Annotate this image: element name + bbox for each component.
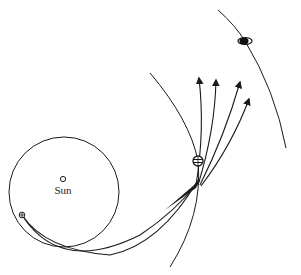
transfer-path-inner [22, 180, 198, 255]
jupiter-marker-icon [193, 156, 203, 166]
saturn-marker-icon [238, 38, 252, 45]
transfer-wedge [165, 180, 200, 210]
earth-marker-icon [19, 212, 25, 218]
flyby-arrow-1 [196, 78, 201, 185]
diagram-canvas [0, 0, 301, 275]
flyby-arrow-4 [201, 99, 249, 186]
sun-marker-icon [60, 176, 65, 181]
saturn-orbit [218, 10, 286, 148]
jupiter-orbit [150, 73, 199, 267]
sun-label: Sun [54, 184, 71, 196]
orbit-diagram: Sun [0, 0, 301, 275]
